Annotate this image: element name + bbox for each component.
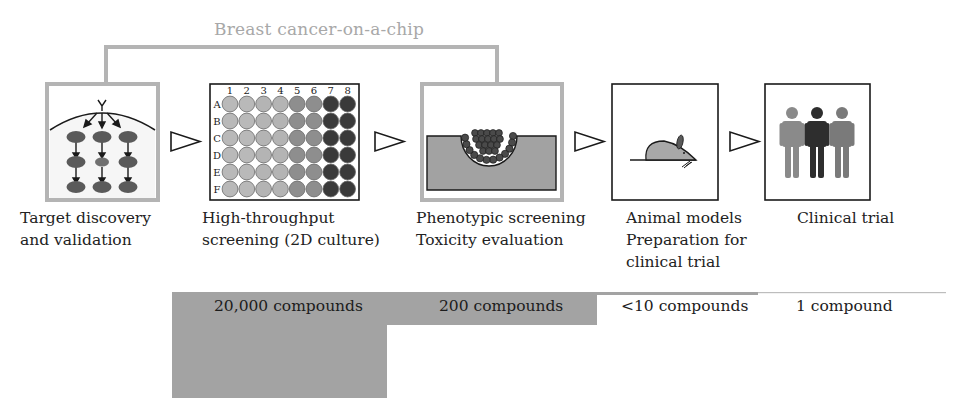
plate-well: [256, 181, 272, 197]
plate-well: [239, 96, 255, 112]
plate-well: [289, 164, 305, 180]
plate-well: [289, 181, 305, 197]
count-hts: 20,000 compounds: [214, 297, 363, 315]
plate-column-label: 3: [260, 85, 266, 96]
arrow-right-icon: [375, 132, 404, 151]
plate-well: [306, 130, 322, 146]
plate-well: [306, 96, 322, 112]
arrow-right-icon: [730, 132, 759, 151]
plate-well: [273, 96, 289, 112]
stage-label-phenotypic: Phenotypic screening Toxicity evaluation: [416, 207, 586, 251]
plate-well: [239, 181, 255, 197]
plate-column-label: 4: [277, 85, 283, 96]
label-line: Preparation for: [626, 229, 747, 251]
plate-well: [256, 164, 272, 180]
plate-well: [239, 164, 255, 180]
label-line: screening (2D culture): [202, 229, 380, 251]
label-line: High-throughput: [202, 207, 380, 229]
chip-bracket: [106, 47, 497, 82]
label-line: Animal models: [626, 207, 747, 229]
plate-well: [256, 147, 272, 163]
count-phenotypic: 200 compounds: [439, 297, 563, 315]
plate-well: [239, 130, 255, 146]
stage-label-animal: Animal models Preparation for clinical t…: [626, 207, 747, 273]
plate-well: [340, 147, 356, 163]
label-line: and validation: [20, 229, 151, 251]
plate-well: [323, 147, 339, 163]
stage-label-target: Target discovery and validation: [20, 207, 151, 251]
plate-well: [239, 113, 255, 129]
plate-well: [340, 113, 356, 129]
plate-column-label: 8: [344, 85, 350, 96]
plate-row-label: E: [213, 167, 220, 178]
plate-well: [256, 96, 272, 112]
plate-well: [256, 113, 272, 129]
phenotypic-screening-box: [422, 84, 562, 200]
stage-label-hts: High-throughput screening (2D culture): [202, 207, 380, 251]
plate-well: [306, 164, 322, 180]
plate-column-label: 1: [227, 85, 233, 96]
label-line: Toxicity evaluation: [416, 229, 586, 251]
plate-column-label: 7: [328, 85, 334, 96]
plate-well: [273, 113, 289, 129]
plate-well: [256, 130, 272, 146]
plate-well: [222, 130, 238, 146]
plate-well: [222, 164, 238, 180]
plate-well: [273, 164, 289, 180]
count-clinical: 1 compound: [796, 297, 893, 315]
plate-well: [306, 181, 322, 197]
label-line: Target discovery: [20, 207, 151, 229]
plate-well: [340, 130, 356, 146]
plate-well: [340, 96, 356, 112]
stage-label-clinical: Clinical trial: [797, 207, 894, 229]
count-animal: <10 compounds: [621, 297, 748, 315]
plate-well: [306, 147, 322, 163]
clinical-trial-box: [765, 84, 870, 200]
plate-well: [273, 181, 289, 197]
plate-well: [222, 96, 238, 112]
plate-row-label: F: [214, 184, 221, 195]
plate-well: [340, 164, 356, 180]
plate-well: [289, 96, 305, 112]
plate-well: [222, 113, 238, 129]
plate-row-label: A: [212, 99, 221, 110]
pipeline-graphics: 12345678 ABCDEF: [0, 0, 955, 412]
plate-well: [323, 130, 339, 146]
plate-well: [273, 130, 289, 146]
plate-well: [239, 147, 255, 163]
plate-row-label: B: [213, 116, 220, 127]
plate-well: [222, 147, 238, 163]
plate-well: [289, 130, 305, 146]
label-line: Clinical trial: [797, 207, 894, 229]
plate-well: [289, 147, 305, 163]
plate-well: [306, 113, 322, 129]
label-line: clinical trial: [626, 251, 747, 273]
plate-row-label: D: [213, 150, 221, 161]
well-plate-box: 12345678 ABCDEF: [210, 84, 359, 200]
plate-row-label: C: [213, 133, 221, 144]
target-discovery-box: [47, 84, 158, 200]
plate-well: [323, 113, 339, 129]
protein-nodes: [67, 131, 138, 193]
plate-well: [323, 96, 339, 112]
plate-well: [289, 113, 305, 129]
plate-column-label: 2: [244, 85, 250, 96]
animal-models-box: [612, 84, 718, 200]
plate-well: [323, 164, 339, 180]
arrow-right-icon: [171, 132, 200, 151]
arrow-right-icon: [575, 132, 604, 151]
plate-well: [273, 147, 289, 163]
plate-column-label: 5: [294, 85, 300, 96]
plate-well: [222, 181, 238, 197]
label-line: Phenotypic screening: [416, 207, 586, 229]
plate-well: [323, 181, 339, 197]
plate-well: [340, 181, 356, 197]
plate-column-label: 6: [311, 85, 317, 96]
